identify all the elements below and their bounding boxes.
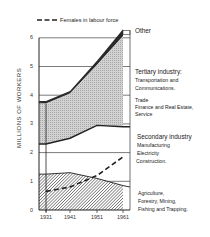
label-secondary-header: Secondary industry [137,133,192,140]
area-primary [39,173,123,210]
legend: Females in labour force [37,17,118,23]
x-tick-label: 1951 [91,214,103,220]
y-tick-label: 2 [30,149,33,155]
label-secondary-3: Construction. [136,158,167,164]
y-axis-title: MILLIONS OF WORKERS [16,68,22,148]
label-other: Other [135,27,151,34]
label-tertiary-header: Tertiary industry: [135,68,182,75]
label-tertiary-5: Service [135,111,152,117]
y-tick-label: 5 [30,63,33,69]
label-secondary-2: Electricity [137,150,159,156]
x-tick-label: 1941 [64,214,76,220]
label-tertiary-2: Communications. [135,85,175,91]
y-tick-label: 3 [30,120,33,126]
label-primary-1: Agriculture, [138,190,164,196]
y-tick-label: 1 [30,178,33,184]
legend-label-females: Females in labour force [60,17,118,23]
label-tertiary-1: Transportation and [135,77,178,83]
label-tertiary-3: Trade [135,97,148,103]
label-primary-3: Fishing and Trapping. [138,206,188,212]
dashed-line-icon [37,18,57,22]
stacked-areas [39,29,130,210]
other-box [123,31,130,35]
label-tertiary-4: Finance and Real Estate, [135,104,193,110]
y-tick-label: 6 [30,34,33,40]
label-primary-2: Forestry, Mining, [138,198,176,204]
area-tertiary [39,36,123,144]
y-tick-label: 4 [30,92,33,98]
x-tick-label: 1961 [117,214,129,220]
x-tick-label: 1931 [40,214,52,220]
y-tick-label: 0 [30,207,33,213]
label-secondary-1: Manufacturing [137,142,170,148]
